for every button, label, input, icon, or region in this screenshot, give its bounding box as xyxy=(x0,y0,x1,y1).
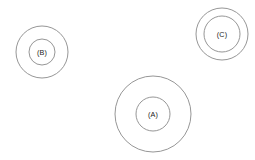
concentric-circles-diagram: (A) (B) (C) xyxy=(0,0,255,160)
group-a[interactable]: (A) xyxy=(115,76,191,152)
diagram-canvas: (A) (B) (C) xyxy=(0,0,255,160)
group-b[interactable]: (B) xyxy=(16,26,68,78)
group-a-label: (A) xyxy=(148,110,158,119)
group-b-label: (B) xyxy=(37,48,47,57)
group-c[interactable]: (C) xyxy=(196,8,248,60)
group-c-label: (C) xyxy=(217,30,227,39)
